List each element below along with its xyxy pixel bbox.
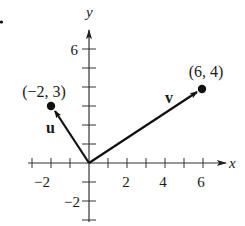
y-tick-label-6: 6 xyxy=(71,42,79,58)
vector-v-point-label: (6, 4) xyxy=(189,63,224,81)
vector-v-arrow xyxy=(89,92,197,163)
vector-u-arrow xyxy=(55,111,89,163)
vector-u-point-label: (−2, 3) xyxy=(22,83,66,101)
x-tick-label-2: 2 xyxy=(122,174,130,190)
coordinate-plane: x y −2 2 4 6 6 −2 (−2, 3) u (6, 4) v xyxy=(0,0,245,226)
x-tick-label-neg2: −2 xyxy=(34,174,50,190)
y-axis-label: y xyxy=(84,4,93,20)
vector-u-endpoint xyxy=(47,102,55,110)
y-tick-label-neg2: −2 xyxy=(64,194,80,210)
vector-v-label: v xyxy=(165,89,173,106)
vector-u-label: u xyxy=(46,119,55,136)
vector-diagram: x y −2 2 4 6 6 −2 (−2, 3) u (6, 4) v xyxy=(0,0,245,226)
x-tick-label-6: 6 xyxy=(197,174,205,190)
vector-v-endpoint xyxy=(198,85,206,93)
x-tick-label-4: 4 xyxy=(159,174,167,190)
problem-marker-dot xyxy=(0,20,3,23)
x-axis-label: x xyxy=(228,155,236,171)
